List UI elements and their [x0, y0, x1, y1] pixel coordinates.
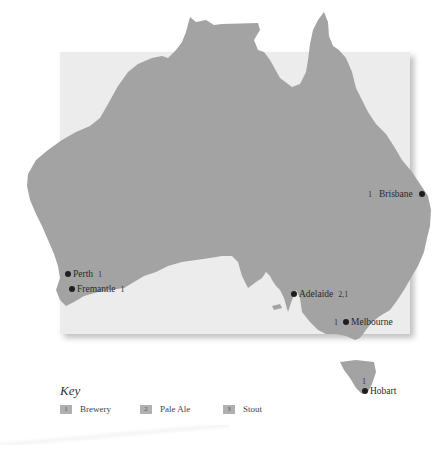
- page-fold-shadow: [0, 425, 230, 445]
- legend-items: 1 Brewery 2 Pale Ale 3 Stout: [60, 404, 262, 414]
- perth-label: Perth: [73, 269, 93, 279]
- legend-label-brewery: Brewery: [80, 404, 111, 414]
- adelaide-label: Adelaide: [299, 289, 333, 299]
- brisbane-badge: 1: [368, 190, 372, 199]
- city-marker-brisbane[interactable]: 1 Brisbane: [368, 189, 425, 199]
- hobart-badge: 1: [362, 377, 366, 386]
- map-legend: Key 1 Brewery 2 Pale Ale 3 Stout: [60, 383, 80, 399]
- brisbane-dot-icon: [419, 191, 425, 197]
- australia-landmass: [0, 0, 444, 449]
- brisbane-label: Brisbane: [379, 189, 413, 199]
- melbourne-badge: 1: [334, 318, 338, 327]
- melbourne-label: Melbourne: [351, 317, 393, 327]
- city-marker-perth[interactable]: Perth 1: [65, 269, 102, 279]
- adelaide-dot-icon: [291, 291, 297, 297]
- legend-title: Key: [60, 383, 80, 399]
- hobart-dot-icon: [362, 388, 368, 394]
- fremantle-badge: 1: [121, 285, 125, 294]
- legend-swatch-1: 1: [60, 405, 72, 414]
- legend-item-stout: 3 Stout: [223, 404, 262, 414]
- city-marker-fremantle[interactable]: Fremantle 1: [69, 284, 125, 294]
- city-marker-melbourne[interactable]: 1 Melbourne: [334, 317, 393, 327]
- legend-swatch-2: 2: [140, 405, 152, 414]
- legend-label-stout: Stout: [243, 404, 262, 414]
- legend-item-pale-ale: 2 Pale Ale: [140, 404, 223, 414]
- australia-map: 1 Brisbane Perth 1 Fremantle 1 Adelaide …: [0, 0, 444, 449]
- fremantle-label: Fremantle: [77, 284, 116, 294]
- legend-item-brewery: 1 Brewery: [60, 404, 140, 414]
- perth-badge: 1: [98, 270, 102, 279]
- legend-label-pale-ale: Pale Ale: [160, 404, 190, 414]
- hobart-label: Hobart: [370, 386, 396, 396]
- fremantle-dot-icon: [69, 286, 75, 292]
- melbourne-dot-icon: [343, 319, 349, 325]
- perth-dot-icon: [65, 271, 71, 277]
- adelaide-badge: 2,1: [338, 290, 348, 299]
- city-marker-hobart[interactable]: Hobart: [362, 386, 396, 396]
- city-marker-adelaide[interactable]: Adelaide 2,1: [291, 289, 348, 299]
- legend-swatch-3: 3: [223, 405, 235, 414]
